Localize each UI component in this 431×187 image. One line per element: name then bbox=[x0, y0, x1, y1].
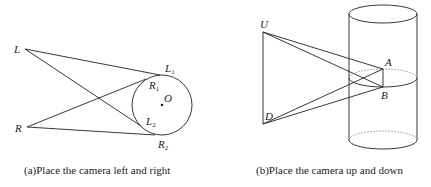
label-U: U bbox=[260, 18, 269, 30]
cylinder-bottom-front bbox=[349, 140, 417, 149]
label-O: O bbox=[164, 92, 172, 104]
cylinder-top-ellipse bbox=[349, 5, 417, 23]
center-point-O bbox=[161, 104, 164, 107]
line-U-B bbox=[263, 32, 383, 87]
label-A: A bbox=[384, 56, 392, 68]
label-L2: L2 bbox=[145, 115, 156, 129]
line-D-B bbox=[263, 87, 383, 124]
label-D: D bbox=[264, 110, 273, 122]
line-D-A bbox=[263, 69, 383, 124]
label-B: B bbox=[381, 89, 388, 101]
label-L: L bbox=[13, 43, 20, 55]
label-R2: R2 bbox=[157, 138, 169, 152]
caption-b: (b)Place the camera up and down bbox=[256, 164, 403, 176]
line-R-R2 bbox=[27, 127, 155, 135]
diagram-canvas: L R O L1 R1 L2 R2 U D A B bbox=[0, 0, 431, 187]
label-R1: R1 bbox=[148, 79, 160, 93]
cylinder-bottom-back bbox=[349, 131, 417, 140]
line-R-R1 bbox=[27, 79, 146, 127]
figure-b bbox=[263, 5, 417, 149]
caption-a: (a)Place the camera left and right bbox=[24, 164, 170, 176]
line-U-A bbox=[263, 32, 383, 69]
label-R: R bbox=[14, 122, 22, 134]
label-L1: L1 bbox=[164, 62, 175, 76]
